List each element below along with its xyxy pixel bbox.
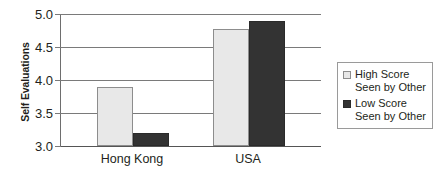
category-label-hong-kong: Hong Kong xyxy=(101,152,164,166)
y-axis-title: Self Evaluations xyxy=(19,7,31,157)
ytick-label-4-5: 4.5 xyxy=(35,40,53,55)
legend-item-low-score: Low Score Seen by Other xyxy=(343,97,426,123)
light-swatch-icon xyxy=(343,71,351,79)
ytick-mark-3-0 xyxy=(55,146,61,147)
bar-usa-low-score xyxy=(249,21,285,146)
legend: High Score Seen by Other Low Score Seen … xyxy=(337,62,433,129)
category-label-usa: USA xyxy=(235,152,261,166)
legend-label-high-score-line2: Seen by Other xyxy=(355,81,426,93)
ytick-label-3-0: 3.0 xyxy=(35,139,53,154)
ytick-mark-4-5 xyxy=(55,47,61,48)
gridline-5-0 xyxy=(61,14,321,15)
ytick-label-3-5: 3.5 xyxy=(35,106,53,121)
bar-hong-kong-high-score xyxy=(97,87,133,146)
ytick-mark-3-5 xyxy=(55,113,61,114)
gridline-3-0-baseline xyxy=(61,146,321,147)
bar-usa-high-score xyxy=(213,29,249,146)
legend-label-high-score: High Score Seen by Other xyxy=(355,68,426,94)
legend-label-low-score-line2: Seen by Other xyxy=(355,110,426,122)
ytick-mark-5-0 xyxy=(55,14,61,15)
legend-label-low-score: Low Score Seen by Other xyxy=(355,97,426,123)
legend-item-high-score: High Score Seen by Other xyxy=(343,68,426,94)
plot-area: 5.0 4.5 4.0 3.5 3.0 xyxy=(60,14,321,146)
legend-label-low-score-line1: Low Score xyxy=(355,97,407,109)
legend-label-high-score-line1: High Score xyxy=(355,68,409,80)
bar-chart-figure: Self Evaluations 5.0 4.5 4.0 3.5 3.0 Hon… xyxy=(0,0,441,193)
bar-hong-kong-low-score xyxy=(133,133,169,146)
ytick-label-4-0: 4.0 xyxy=(35,73,53,88)
ytick-label-5-0: 5.0 xyxy=(35,7,53,22)
ytick-mark-4-0 xyxy=(55,80,61,81)
dark-swatch-icon xyxy=(343,100,351,108)
